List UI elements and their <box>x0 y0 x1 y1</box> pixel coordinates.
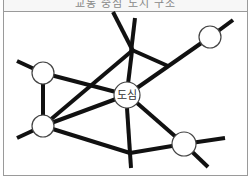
node-left-bottom <box>32 115 54 137</box>
downtown-label: 도심 <box>117 89 137 102</box>
road <box>132 50 168 66</box>
road <box>127 108 131 168</box>
road <box>43 99 116 126</box>
node-left-top <box>32 62 54 84</box>
node-bottom-right <box>172 132 196 156</box>
road <box>131 18 135 52</box>
node-top-right <box>199 26 221 48</box>
transport-network-map: 도심 <box>0 0 251 178</box>
road <box>43 126 130 153</box>
road <box>137 37 210 88</box>
